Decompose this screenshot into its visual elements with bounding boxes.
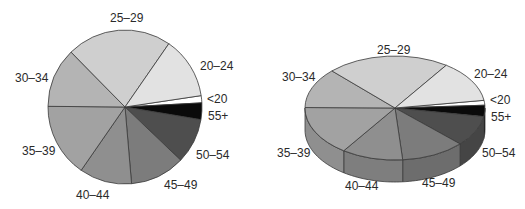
label-under-20: <20 <box>490 93 511 107</box>
label-55-plus: 55+ <box>491 110 511 124</box>
label-20-24: 20–24 <box>200 59 234 73</box>
label-35-39: 35–39 <box>277 146 311 160</box>
pie-chart-3d <box>305 56 485 182</box>
label-40-44: 40–44 <box>345 179 379 193</box>
label-55-plus: 55+ <box>208 109 228 123</box>
label-under-20: <20 <box>207 92 228 106</box>
pie-charts: 25–29 20–24 <20 55+ 50–54 45–49 40–44 35… <box>0 0 525 209</box>
chart-figure: 25–29 20–24 <20 55+ 50–54 45–49 40–44 35… <box>0 0 525 209</box>
label-20-24: 20–24 <box>474 67 508 81</box>
label-30-34: 30–34 <box>282 70 316 84</box>
label-40-44: 40–44 <box>76 188 110 202</box>
label-25-29: 25–29 <box>377 43 411 57</box>
label-45-49: 45–49 <box>164 178 198 192</box>
label-25-29: 25–29 <box>110 11 144 25</box>
label-50-54: 50–54 <box>482 146 516 160</box>
label-35-39: 35–39 <box>22 144 56 158</box>
pie-chart-2d <box>48 30 202 184</box>
label-50-54: 50–54 <box>196 148 230 162</box>
label-30-34: 30–34 <box>15 71 49 85</box>
label-45-49: 45–49 <box>422 176 456 190</box>
